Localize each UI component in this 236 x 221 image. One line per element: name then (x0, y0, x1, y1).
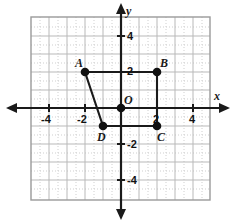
x-axis-name: x (214, 90, 220, 102)
x-tick-label-neg2: -2 (77, 114, 87, 125)
y-tick-label-neg4: -4 (127, 175, 137, 186)
x-tick-label-neg4: -4 (41, 114, 51, 125)
vertex-label-c: C (157, 131, 165, 143)
vertex-label-b: B (160, 57, 168, 69)
vertex-label-a: A (75, 57, 83, 69)
coordinate-plane-graph: -4 -2 2 4 4 2 -2 -4 x y O A B C D (0, 0, 236, 221)
graph-canvas (0, 0, 236, 221)
y-tick-label-neg2: -2 (127, 139, 137, 150)
y-tick-label-pos4: 4 (127, 31, 133, 42)
y-axis-arrow-up (116, 3, 126, 14)
y-axis-name: y (126, 5, 131, 17)
x-tick-label-pos4: 4 (189, 114, 195, 125)
origin-label: O (124, 94, 133, 106)
vertex-label-d: D (97, 131, 106, 143)
x-tick-label-pos2: 2 (153, 114, 159, 125)
x-axis-arrow-left (6, 103, 17, 113)
y-axis-arrow-down (116, 209, 126, 220)
point-d (99, 122, 108, 131)
y-tick-label-pos2: 2 (127, 66, 133, 77)
x-axis-arrow-right (219, 103, 230, 113)
